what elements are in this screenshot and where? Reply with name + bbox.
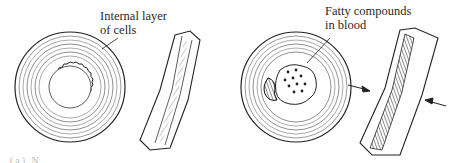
label-fatty-compounds: Fatty compounds in blood <box>325 4 411 32</box>
label-line-1: Internal layer <box>100 9 167 23</box>
label-line-1: Fatty compounds <box>325 4 411 18</box>
artery-diagram: Internal layer of cells Fatty compounds … <box>0 0 452 163</box>
caption-fragment: (a) N <box>10 155 41 163</box>
label-line-2: in blood <box>325 18 411 32</box>
clogged-longitudinal-section <box>360 28 438 155</box>
label-line-2: of cells <box>100 23 167 37</box>
clogged-cross-section <box>241 32 351 142</box>
healthy-longitudinal-section <box>140 31 200 150</box>
healthy-cross-section <box>15 32 125 142</box>
label-internal-layer: Internal layer of cells <box>100 9 167 37</box>
